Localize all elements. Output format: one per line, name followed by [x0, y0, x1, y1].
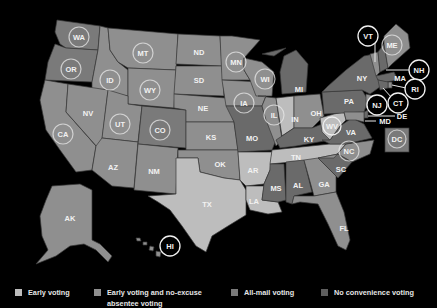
svg-text:ME: ME	[386, 41, 397, 50]
legend-swatch	[94, 289, 101, 296]
svg-text:PA: PA	[344, 97, 354, 106]
state-ri[interactable]	[388, 82, 392, 88]
svg-text:MT: MT	[138, 49, 149, 58]
svg-text:SD: SD	[194, 76, 205, 85]
state-fl[interactable]	[292, 192, 350, 250]
svg-text:MN: MN	[230, 58, 242, 67]
svg-text:AK: AK	[65, 214, 76, 223]
svg-text:NC: NC	[344, 147, 355, 156]
svg-text:WA: WA	[73, 33, 86, 42]
svg-text:MI: MI	[295, 85, 303, 94]
svg-text:WV: WV	[326, 122, 338, 131]
legend-label: Early voting and no-excuse absentee voti…	[107, 287, 202, 308]
svg-text:OR: OR	[65, 65, 77, 74]
svg-text:IN: IN	[291, 115, 299, 124]
svg-text:MA: MA	[394, 74, 406, 83]
state-or[interactable]	[45, 44, 98, 82]
svg-text:NE: NE	[198, 104, 208, 113]
legend-item-all-mail: All-mail voting	[231, 287, 294, 298]
svg-text:DE: DE	[397, 112, 407, 121]
legend: Early voting Early voting and no-excuse …	[0, 284, 437, 308]
state-ak[interactable]	[36, 184, 112, 264]
svg-text:NV: NV	[83, 109, 93, 118]
legend-swatch	[231, 289, 238, 296]
svg-text:KY: KY	[304, 135, 314, 144]
legend-label: All-mail voting	[244, 287, 294, 298]
svg-text:WI: WI	[260, 75, 269, 84]
svg-text:OH: OH	[310, 109, 321, 118]
us-voting-map: WA OR CA ID NV MT WY UT AZ CO NM ND SD N…	[0, 0, 437, 308]
svg-text:FL: FL	[339, 224, 349, 233]
svg-text:TX: TX	[202, 200, 212, 209]
svg-text:AL: AL	[293, 181, 303, 190]
svg-text:CO: CO	[154, 126, 165, 135]
svg-text:NJ: NJ	[372, 101, 382, 110]
svg-text:GA: GA	[318, 180, 330, 189]
svg-text:IL: IL	[271, 111, 278, 120]
svg-text:IA: IA	[240, 99, 248, 108]
svg-text:UT: UT	[115, 120, 125, 129]
svg-text:MO: MO	[246, 134, 258, 143]
svg-text:TN: TN	[291, 153, 301, 162]
state-hi[interactable]	[136, 238, 161, 257]
svg-text:NH: NH	[414, 66, 425, 75]
legend-label: Early voting	[28, 287, 70, 298]
legend-label: No convenience voting	[334, 287, 414, 298]
svg-text:MD: MD	[379, 117, 391, 126]
legend-item-no-convenience: No convenience voting	[321, 287, 414, 298]
svg-text:KS: KS	[206, 133, 216, 142]
svg-text:MS: MS	[270, 184, 281, 193]
svg-text:NY: NY	[357, 74, 367, 83]
legend-swatch	[321, 289, 328, 296]
svg-text:ID: ID	[106, 76, 114, 85]
svg-text:OK: OK	[214, 160, 226, 169]
svg-text:CA: CA	[58, 130, 69, 139]
svg-text:HI: HI	[166, 242, 174, 251]
svg-text:SC: SC	[336, 165, 347, 174]
legend-item-early-noexcuse: Early voting and no-excuse absentee voti…	[94, 287, 202, 308]
svg-text:VA: VA	[346, 128, 356, 137]
svg-text:AR: AR	[248, 166, 259, 175]
svg-text:CT: CT	[393, 99, 403, 108]
svg-text:DC: DC	[392, 135, 403, 144]
svg-text:NM: NM	[148, 167, 160, 176]
svg-text:WY: WY	[144, 86, 156, 95]
svg-text:LA: LA	[249, 197, 260, 206]
svg-text:ND: ND	[194, 48, 205, 57]
legend-item-early-voting: Early voting	[15, 287, 70, 298]
svg-text:RI: RI	[411, 85, 419, 94]
legend-swatch	[15, 289, 22, 296]
svg-text:VT: VT	[363, 32, 373, 41]
svg-text:AZ: AZ	[108, 163, 118, 172]
